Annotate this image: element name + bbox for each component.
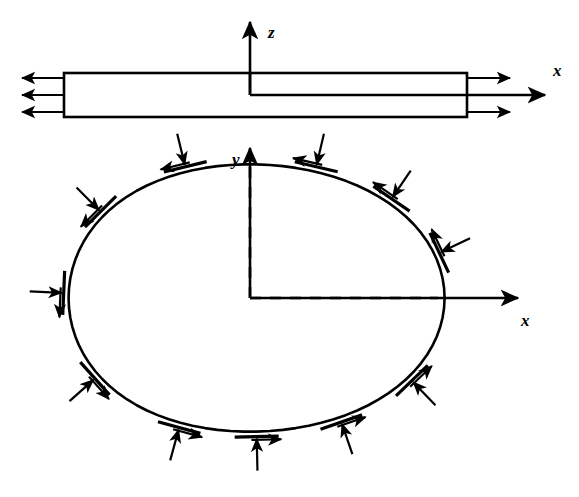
tangent-bar <box>63 271 65 315</box>
tangent-bar <box>235 436 279 437</box>
shear-traction-arrow <box>410 366 432 387</box>
tangent-bar <box>373 186 409 211</box>
left-tension-arrows <box>22 78 64 112</box>
normal-traction-arrow <box>30 291 62 292</box>
normal-traction-arrow <box>177 134 185 165</box>
shear-traction-arrow <box>89 377 109 399</box>
traction-marker-7 <box>235 436 282 470</box>
traction-marker-3 <box>77 187 117 227</box>
traction-marker-2 <box>161 134 207 172</box>
crack-line <box>250 73 467 95</box>
normal-traction-arrow <box>413 382 435 405</box>
traction-loaded-contour: y x <box>30 134 530 471</box>
traction-marker-1 <box>293 134 338 172</box>
shear-traction-arrow <box>59 287 60 317</box>
traction-marker-4 <box>30 271 65 317</box>
x-axis-label-top: x <box>552 61 562 80</box>
normal-traction-arrow <box>441 238 470 252</box>
normal-traction-arrow <box>342 424 352 454</box>
shear-traction-arrow <box>81 205 102 226</box>
tangent-bar <box>80 362 109 395</box>
normal-traction-arrow <box>170 430 178 461</box>
technical-figure: z x y x <box>0 0 579 497</box>
cracked-plate-side-view: z x <box>22 22 562 117</box>
figure-root: z x y x <box>0 0 579 497</box>
y-axis-label: y <box>230 150 240 169</box>
normal-traction-arrow <box>257 439 258 471</box>
traction-marker-10 <box>430 229 470 273</box>
x-axis-label-bottom: x <box>520 311 530 330</box>
normal-traction-arrow <box>70 380 94 401</box>
normal-traction-arrow <box>77 187 100 210</box>
shear-traction-arrow <box>251 439 281 440</box>
traction-marker-9 <box>396 365 435 405</box>
z-axis-label: z <box>267 23 275 42</box>
normal-traction-arrow <box>317 134 324 165</box>
normal-traction-arrow <box>393 171 411 197</box>
